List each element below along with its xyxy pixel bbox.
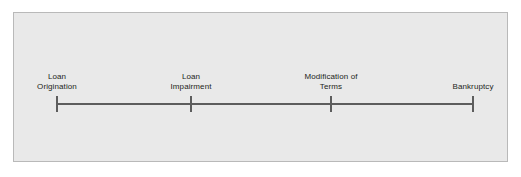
timeline-label-line: Loan: [37, 72, 77, 82]
timeline-label-line: Loan: [170, 72, 211, 82]
timeline-label-loan-origination: Loan Origination: [37, 72, 77, 92]
timeline-tick-loan-impairment: [190, 96, 192, 112]
timeline-figure: Loan Origination Loan Impairment Modific…: [0, 0, 521, 177]
timeline-label-line: Terms: [304, 82, 357, 92]
timeline-label-modification-of-terms: Modification of Terms: [304, 72, 357, 92]
timeline-label-loan-impairment: Loan Impairment: [170, 72, 211, 92]
timeline-axis-line: [57, 103, 473, 105]
timeline-plot-area: Loan Origination Loan Impairment Modific…: [14, 13, 507, 161]
timeline-label-line: Impairment: [170, 82, 211, 92]
timeline-panel: Loan Origination Loan Impairment Modific…: [13, 12, 508, 162]
timeline-label-line: Bankruptcy: [452, 82, 493, 92]
timeline-label-bankruptcy: Bankruptcy: [452, 82, 493, 92]
timeline-tick-modification-of-terms: [330, 96, 332, 112]
timeline-tick-bankruptcy: [472, 96, 474, 112]
timeline-label-line: Origination: [37, 82, 77, 92]
timeline-tick-loan-origination: [56, 96, 58, 112]
timeline-label-line: Modification of: [304, 72, 357, 82]
